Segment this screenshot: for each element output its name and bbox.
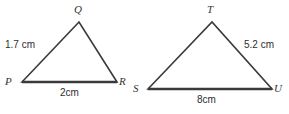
vertex-label-s: S	[133, 83, 139, 94]
side-length-su: 8cm	[197, 95, 216, 105]
triangle-stu-outline	[148, 22, 272, 89]
geometry-figure: P Q R 1.7 cm 2cm S T U 5.2 cm 8cm	[0, 0, 289, 114]
vertex-label-t: T	[207, 4, 213, 15]
vertex-label-r: R	[119, 76, 126, 87]
triangle-pqr-outline	[22, 22, 117, 82]
vertex-label-p: P	[5, 76, 12, 87]
side-length-pr: 2cm	[60, 88, 79, 98]
triangles-svg	[0, 0, 289, 114]
vertex-label-q: Q	[74, 4, 82, 15]
side-length-pq: 1.7 cm	[5, 40, 35, 50]
side-length-tu: 5.2 cm	[244, 40, 274, 50]
vertex-label-u: U	[274, 83, 282, 94]
